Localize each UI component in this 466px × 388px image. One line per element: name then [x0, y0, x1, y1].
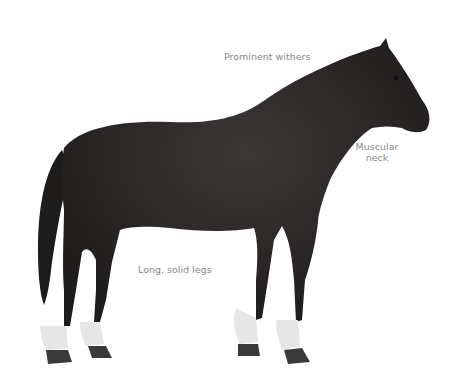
hoof-rear-left — [46, 350, 72, 364]
sock-rear-right — [80, 322, 104, 346]
horse-eye — [393, 76, 399, 80]
label-prominent-withers: Prominent withers — [224, 51, 310, 62]
label-muscular-neck: Muscular neck — [352, 141, 402, 163]
hoof-rear-right — [88, 346, 112, 358]
sock-front-left — [234, 308, 258, 344]
sock-front-right — [276, 320, 300, 350]
label-neck-line2: neck — [352, 152, 402, 163]
horse-body — [62, 38, 430, 326]
label-neck-line1: Muscular — [352, 141, 402, 152]
hoof-front-right — [284, 348, 310, 364]
label-long-solid-legs: Long, solid legs — [138, 264, 212, 275]
hoof-front-left — [238, 344, 260, 356]
sock-rear-left — [40, 326, 68, 350]
